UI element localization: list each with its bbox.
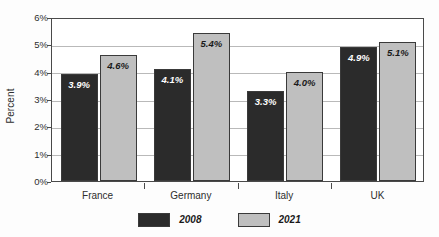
x-axis-separator-tick: [144, 183, 145, 189]
bar-value-label: 5.4%: [194, 38, 229, 49]
bar-chart: Percent 0%1%2%3%4%5%6% 3.9%4.6%4.1%5.4%3…: [0, 0, 439, 237]
legend-label: 2021: [279, 214, 301, 226]
bar-france-2021: 4.6%: [100, 55, 137, 181]
legend-item-2021[interactable]: 2021: [238, 213, 301, 227]
legend-label: 2008: [179, 214, 201, 226]
y-axis-tick-mark: [47, 182, 51, 183]
y-axis-tick-mark: [47, 155, 51, 156]
bar-value-label: 5.1%: [380, 47, 415, 58]
legend-swatch-2021: [238, 213, 270, 227]
bar-germany-2008: 4.1%: [154, 69, 191, 181]
y-axis-tick-mark: [47, 18, 51, 19]
bar-value-label: 3.9%: [62, 79, 97, 90]
bar-italy-2008: 3.3%: [247, 91, 284, 181]
x-axis-category-label: Germany: [144, 190, 237, 202]
y-axis-tick-labels: 0%1%2%3%4%5%6%: [14, 18, 48, 182]
legend-swatch-2008: [138, 213, 170, 227]
y-axis-tick-label: 0%: [18, 177, 48, 187]
bar-italy-2021: 4.0%: [286, 72, 323, 181]
bar-uk-2021: 5.1%: [379, 42, 416, 181]
bar-value-label: 4.6%: [101, 60, 136, 71]
plot-area: 3.9%4.6%4.1%5.4%3.3%4.0%4.9%5.1%: [51, 18, 424, 182]
bar-value-label: 4.1%: [155, 74, 190, 85]
y-axis-tick-label: 6%: [18, 13, 48, 23]
y-axis-tick-mark: [47, 127, 51, 128]
bar-value-label: 4.9%: [341, 52, 376, 63]
bar-uk-2008: 4.9%: [340, 47, 377, 181]
y-axis-tick-label: 3%: [18, 95, 48, 105]
x-axis-separator-tick: [238, 183, 239, 189]
y-axis-tick-mark: [47, 45, 51, 46]
y-axis-tick-mark: [47, 73, 51, 74]
bar-value-label: 4.0%: [287, 77, 322, 88]
x-axis-category-label: UK: [331, 190, 424, 202]
bar-germany-2021: 5.4%: [193, 33, 230, 181]
x-axis-category-label: Italy: [238, 190, 331, 202]
y-axis-tick-label: 1%: [18, 150, 48, 160]
y-axis-tick-label: 2%: [18, 122, 48, 132]
y-axis-tick-label: 4%: [18, 68, 48, 78]
legend-item-2008[interactable]: 2008: [138, 213, 201, 227]
x-axis-category-label: France: [51, 190, 144, 202]
legend: 20082021: [0, 210, 439, 230]
bar-france-2008: 3.9%: [61, 74, 98, 181]
bar-value-label: 3.3%: [248, 96, 283, 107]
x-axis-separator-tick: [331, 183, 332, 189]
y-axis-tick-mark: [47, 100, 51, 101]
y-axis-tick-label: 5%: [18, 40, 48, 50]
